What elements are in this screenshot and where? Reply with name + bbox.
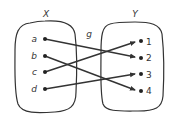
element-a-label: a — [31, 34, 37, 44]
set-x-label: X — [42, 9, 50, 19]
set-y-boundary — [101, 22, 164, 111]
mapping-diagram: X Y g a b c d 1 2 3 4 — [0, 0, 178, 129]
set-y-label: Y — [132, 9, 139, 19]
dot-a — [43, 37, 47, 41]
dot-3 — [139, 72, 143, 76]
dot-4 — [139, 89, 143, 93]
arrow-c-to-1 — [45, 42, 135, 72]
element-3-label: 3 — [146, 70, 152, 80]
set-x-boundary — [15, 21, 77, 113]
arrow-b-to-4 — [45, 56, 135, 90]
dot-1 — [139, 39, 143, 43]
dot-2 — [139, 56, 143, 60]
arrow-d-to-3 — [45, 74, 135, 89]
arrow-a-to-2 — [45, 39, 135, 57]
element-2-label: 2 — [146, 53, 152, 63]
dot-d — [43, 87, 47, 91]
element-c-label: c — [32, 67, 37, 77]
element-d-label: d — [31, 84, 37, 94]
element-b-label: b — [31, 51, 37, 61]
element-4-label: 4 — [146, 86, 152, 96]
function-label: g — [86, 29, 92, 39]
element-1-label: 1 — [146, 37, 152, 47]
dot-c — [43, 70, 47, 74]
dot-b — [43, 54, 47, 58]
